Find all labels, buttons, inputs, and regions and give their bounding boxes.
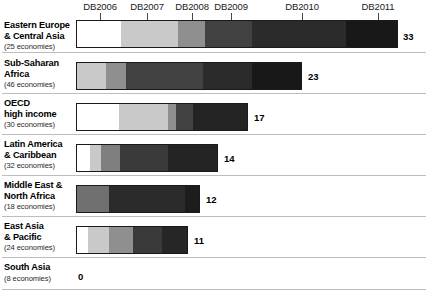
region-label-east-asia-pacific: East Asia& Pacific(24 economies): [4, 221, 74, 253]
row-divider: [2, 216, 426, 217]
stacked-bar-chart: DB2006DB2007DB2008DB2009DB2010DB2011 Eas…: [0, 0, 431, 295]
region-name-line1: OECD: [4, 98, 74, 109]
region-economies-count: (30 economies): [4, 120, 74, 130]
bar-segment-db2009: [109, 186, 185, 212]
region-label-middle-east-north-africa: Middle East &North Africa(18 economies): [4, 180, 74, 212]
region-name-line2: & Central Asia: [4, 31, 74, 42]
bar-segment-db2010: [162, 227, 187, 253]
region-economies-count: (18 economies): [4, 202, 74, 212]
axis-tick-db2008: [192, 13, 193, 20]
axis-label-db2009: DB2009: [214, 1, 248, 12]
row-divider: [2, 289, 426, 290]
region-label-oecd-high-income: OECDhigh income(30 economies): [4, 98, 74, 130]
bar-segment-db2007: [90, 145, 101, 171]
axis-label-db2010: DB2010: [285, 1, 319, 12]
bar-segment-db2008: [106, 63, 126, 89]
bar-segment-db2007: [88, 227, 110, 253]
axis-label-db2006: DB2006: [83, 1, 117, 12]
region-name-line1: Latin America: [4, 139, 74, 150]
row-divider: [2, 134, 426, 135]
bar-total-value: 23: [308, 71, 319, 82]
bar-segment-db2007: [119, 104, 168, 130]
region-label-sub-saharan-africa: Sub-SaharanAfrica(46 economies): [4, 58, 74, 90]
bar-segment-db2011: [346, 21, 397, 47]
region-economies-count: (8 economies): [4, 274, 74, 284]
bar-east-asia-pacific: [76, 226, 188, 254]
axis-tick-db2007: [147, 13, 148, 20]
bar-segment-db2008: [178, 21, 205, 47]
row-divider: [2, 93, 426, 94]
bar-segment-db2010: [193, 104, 247, 130]
region-name-line1: Sub-Saharan: [4, 58, 74, 69]
bar-segment-db2009: [176, 104, 193, 130]
row-divider: [2, 52, 426, 53]
bar-segment-db2006: [77, 227, 88, 253]
bar-segment-db2008: [77, 186, 109, 212]
bar-segment-db2007: [77, 63, 106, 89]
bar-segment-db2010: [168, 145, 217, 171]
bar-segment-db2009: [205, 21, 252, 47]
region-economies-count: (46 economies): [4, 80, 74, 90]
region-name-line1: Middle East &: [4, 180, 74, 191]
bar-segment-db2007: [121, 21, 179, 47]
region-name-line2: North Africa: [4, 191, 74, 202]
bar-segment-db2006: [77, 145, 90, 171]
axis-tick-db2009: [231, 13, 232, 20]
region-name-line2: & Caribbean: [4, 150, 74, 161]
bar-total-value: 33: [403, 31, 414, 42]
region-label-south-asia: South Asia(8 economies): [4, 262, 74, 283]
bar-oecd-high-income: [76, 103, 248, 131]
region-label-eastern-europe-central-asia: Eastern Europe& Central Asia(25 economie…: [4, 20, 74, 52]
axis-tick-db2010: [302, 13, 303, 20]
bar-eastern-europe-central-asia: [76, 20, 398, 48]
bar-segment-db2010: [252, 21, 346, 47]
region-label-latin-america-caribbean: Latin America& Caribbean(32 economies): [4, 139, 74, 171]
axis-tick-db2011: [378, 13, 379, 20]
bar-total-value: 0: [78, 271, 83, 282]
region-economies-count: (25 economies): [4, 42, 74, 52]
bar-segment-db2009: [120, 145, 167, 171]
region-economies-count: (24 economies): [4, 243, 74, 253]
bar-segment-db2010: [185, 186, 199, 212]
bar-segment-db2008: [109, 227, 133, 253]
bar-latin-america-caribbean: [76, 144, 218, 172]
axis-tick-db2006: [100, 13, 101, 20]
bar-total-value: 12: [206, 194, 217, 205]
bar-sub-saharan-africa: [76, 62, 302, 90]
axis-label-db2008: DB2008: [175, 1, 209, 12]
region-name-line1: Eastern Europe: [4, 20, 74, 31]
row-divider: [2, 175, 426, 176]
bar-segment-db2006: [77, 21, 121, 47]
axis-label-db2007: DB2007: [130, 1, 164, 12]
region-economies-count: (32 economies): [4, 161, 74, 171]
chart-axis-header: DB2006DB2007DB2008DB2009DB2010DB2011: [0, 0, 431, 20]
region-name-line1: South Asia: [4, 262, 74, 273]
bar-total-value: 11: [194, 235, 204, 246]
region-name-line2: Africa: [4, 69, 74, 80]
region-name-line2: & Pacific: [4, 232, 74, 243]
bar-segment-db2008: [168, 104, 176, 130]
bar-segment-db2008: [101, 145, 121, 171]
region-name-line1: East Asia: [4, 221, 74, 232]
bar-middle-east-north-africa: [76, 185, 200, 213]
bar-total-value: 17: [254, 112, 265, 123]
bar-segment-db2009: [126, 63, 203, 89]
bar-segment-db2006: [77, 104, 119, 130]
row-divider: [2, 257, 426, 258]
bar-segment-db2011: [252, 63, 301, 89]
bar-total-value: 14: [224, 153, 235, 164]
bar-segment-db2010: [203, 63, 253, 89]
axis-label-db2011: DB2011: [361, 1, 394, 12]
bar-segment-db2009: [133, 227, 162, 253]
region-name-line2: high income: [4, 109, 74, 120]
